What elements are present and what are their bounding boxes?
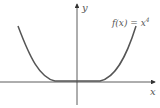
x-axis-label: x	[150, 86, 156, 97]
y-axis-label: y	[81, 2, 88, 13]
exponent: 4	[145, 16, 150, 23]
plot-area: y x f(x) = x4	[0, 0, 160, 108]
function-label: f(x) = x4	[111, 16, 150, 28]
